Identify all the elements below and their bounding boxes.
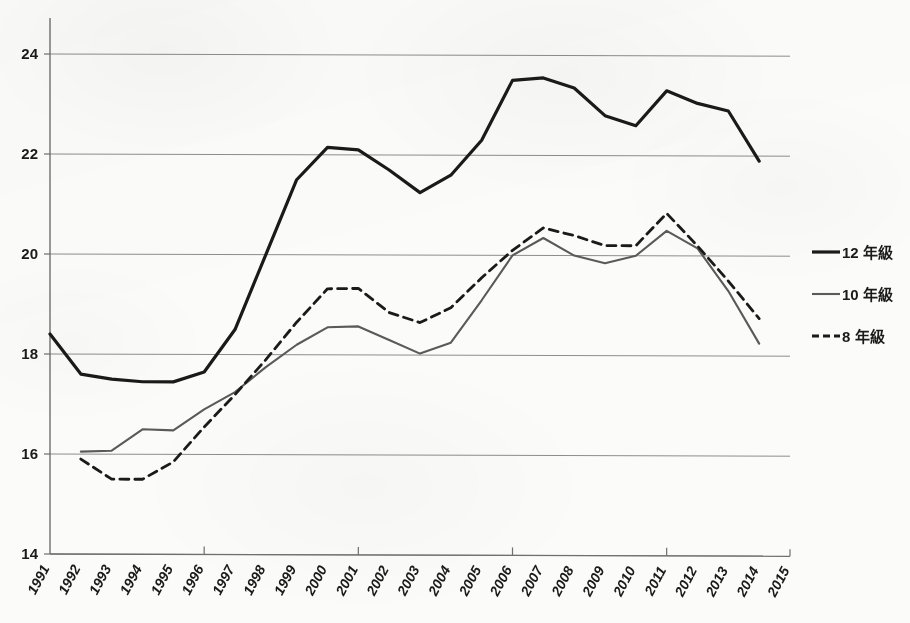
gridline-16: [50, 454, 790, 456]
line-chart: 141618202224 199119921993199419951996199…: [0, 0, 910, 623]
x-tick-label: 2001: [332, 563, 361, 599]
y-tick-label: 24: [21, 45, 38, 62]
chart-page: 141618202224 199119921993199419951996199…: [0, 0, 910, 623]
y-tick-label: 18: [21, 345, 38, 362]
x-tick-label: 2000: [301, 563, 330, 599]
x-tick-label: 1991: [24, 562, 53, 597]
y-tick-label: 22: [21, 145, 38, 162]
x-tick-label: 2013: [702, 564, 731, 600]
x-tick-label: 1996: [178, 562, 207, 597]
x-tick-label: 2010: [609, 563, 638, 599]
x-tick-label: 1994: [116, 562, 145, 597]
x-tick-label: 2004: [424, 563, 453, 599]
x-tick-label: 1998: [240, 562, 269, 597]
x-tick-label: 2012: [671, 564, 700, 600]
y-tick-label: 14: [21, 545, 38, 562]
legend-label-3: 8 年級: [842, 328, 885, 345]
legend-label-1: 12 年級: [842, 244, 893, 261]
gridline-24: [50, 54, 790, 56]
x-tick-label: 1992: [55, 562, 84, 597]
gridline-22: [50, 154, 790, 156]
x-tick-label: 2008: [548, 563, 577, 599]
x-axis-line: [50, 554, 790, 556]
x-tick-label: 1993: [86, 562, 115, 597]
x-tick-label: 1997: [209, 561, 238, 597]
y-tick-label: 20: [21, 245, 38, 262]
series-line-2: [81, 231, 759, 452]
x-tick-label: 2007: [517, 562, 547, 599]
data-series: [50, 78, 759, 479]
x-tick-label: 1999: [271, 562, 300, 597]
axes: [50, 18, 790, 556]
x-tick-label: 2002: [363, 563, 392, 599]
x-tick-label: 2006: [486, 563, 515, 599]
x-tick-label: 2005: [455, 563, 484, 599]
x-tick-label: 2009: [578, 563, 607, 599]
gridline-20: [50, 254, 790, 256]
x-tick-label: 2003: [393, 563, 422, 599]
x-tick-label: 2015: [763, 564, 792, 600]
series-line-3: [81, 213, 759, 479]
x-tick-label: 2011: [641, 564, 670, 599]
x-tick-label: 2014: [733, 564, 762, 600]
gridlines: [50, 54, 790, 556]
chart-legend: 12 年級10 年級8 年級: [812, 244, 893, 345]
legend-label-2: 10 年級: [842, 286, 893, 303]
x-tick-label: 1995: [147, 562, 176, 597]
y-axis-ticks: 141618202224: [21, 45, 50, 562]
y-tick-label: 16: [21, 445, 38, 462]
